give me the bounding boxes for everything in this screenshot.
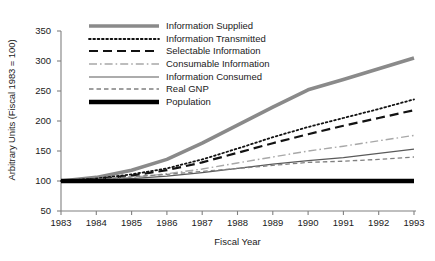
y-axis-tick-label: 200 (17, 116, 51, 126)
x-axis-tick-label: 1989 (253, 218, 293, 228)
legend-line-swatch (88, 20, 160, 32)
legend-line-swatch (88, 58, 160, 70)
legend-item-label: Information Consumed (160, 71, 262, 83)
x-axis-tick-label: 1987 (182, 218, 222, 228)
legend-item-label: Information Transmitted (160, 33, 266, 45)
legend-item-label: Selectable Information (160, 45, 261, 57)
y-axis-tick-label: 350 (17, 26, 51, 36)
legend-item: Information Supplied (88, 20, 298, 33)
legend-item-label: Real GNP (160, 83, 209, 95)
x-axis-tick-label: 1984 (76, 218, 116, 228)
legend-item: Information Consumed (88, 70, 298, 83)
chart-figure: Arbitrary Units (Fiscal 1983 = 100) Fisc… (0, 0, 435, 261)
legend-item-label: Information Supplied (160, 20, 253, 32)
legend-item: Real GNP (88, 83, 298, 96)
x-axis-tick-label: 1988 (218, 218, 258, 228)
legend-item-label: Population (160, 96, 211, 108)
series-line-5 (61, 157, 414, 181)
x-axis-tick-label: 1992 (359, 218, 399, 228)
legend-item: Selectable Information (88, 45, 298, 58)
y-axis-tick-label: 250 (17, 86, 51, 96)
series-line-2 (61, 110, 414, 181)
x-axis-tick-label: 1991 (323, 218, 363, 228)
x-axis-tick-label: 1985 (112, 218, 152, 228)
y-axis-tick-label: 50 (17, 206, 51, 216)
legend-item: Information Transmitted (88, 33, 298, 46)
x-axis-tick-label: 1990 (288, 218, 328, 228)
y-axis-tick-label: 100 (17, 176, 51, 186)
chart-legend: Information SuppliedInformation Transmit… (88, 20, 298, 108)
legend-item-label: Consumable Information (160, 58, 270, 70)
x-axis-tick-label: 1983 (41, 218, 81, 228)
legend-line-swatch (88, 71, 160, 83)
legend-line-swatch (88, 33, 160, 45)
x-axis-tick-label: 1986 (147, 218, 187, 228)
legend-item: Consumable Information (88, 58, 298, 71)
legend-line-swatch (88, 45, 160, 57)
y-axis-tick-label: 150 (17, 146, 51, 156)
legend-line-swatch (88, 83, 160, 95)
legend-item: Population (88, 96, 298, 109)
x-axis-tick-label: 1993 (394, 218, 434, 228)
legend-line-swatch (88, 96, 160, 108)
y-axis-tick-label: 300 (17, 56, 51, 66)
